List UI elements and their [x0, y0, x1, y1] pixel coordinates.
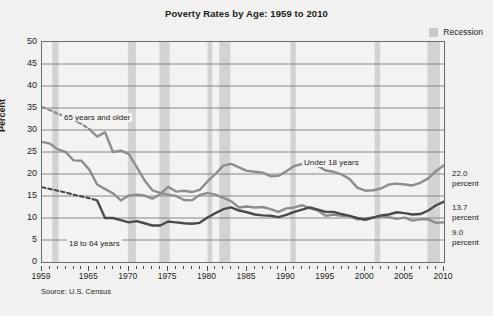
- poverty-rates-chart-figure: Poverty Rates by Age: 1959 to 2010 Reces…: [0, 0, 493, 316]
- y-tick-label: 5: [3, 234, 37, 244]
- x-tick-mark: [143, 266, 144, 269]
- x-tick-mark: [41, 266, 42, 271]
- x-tick-mark: [419, 266, 420, 269]
- series-end-value: 9.0percent: [452, 228, 479, 247]
- x-tick-mark: [270, 266, 271, 269]
- x-tick-label: 2010: [434, 271, 453, 281]
- series-line-dashed: [42, 187, 97, 200]
- x-tick-mark: [214, 266, 215, 269]
- x-tick-mark: [175, 266, 176, 269]
- x-tick-mark: [380, 266, 381, 269]
- y-tick-label: 50: [3, 36, 37, 46]
- x-tick-label: 1975: [158, 271, 177, 281]
- x-tick-mark: [183, 266, 184, 269]
- series-line: [89, 129, 444, 223]
- x-tick-mark: [301, 266, 302, 269]
- x-tick-mark: [199, 266, 200, 269]
- x-tick-mark: [293, 266, 294, 269]
- x-tick-mark: [443, 266, 444, 271]
- x-tick-mark: [396, 266, 397, 269]
- x-tick-mark: [207, 266, 208, 271]
- y-tick-label: 15: [3, 190, 37, 200]
- x-tick-mark: [73, 266, 74, 269]
- page-title: Poverty Rates by Age: 1959 to 2010: [0, 8, 493, 19]
- x-tick-mark: [80, 266, 81, 269]
- y-tick-label: 30: [3, 124, 37, 134]
- recession-legend-label: Recession: [443, 27, 483, 37]
- series-end-value: 22.0percent: [452, 169, 479, 188]
- y-tick-label: 0: [3, 256, 37, 266]
- x-tick-mark: [222, 266, 223, 269]
- x-tick-mark: [191, 266, 192, 269]
- x-tick-mark: [230, 266, 231, 269]
- x-tick-label: 1965: [79, 271, 98, 281]
- x-tick-mark: [388, 266, 389, 269]
- x-tick-mark: [96, 266, 97, 269]
- y-tick-label: 10: [3, 212, 37, 222]
- series-label: 18 to 64 years: [67, 239, 122, 248]
- x-tick-mark: [356, 266, 357, 269]
- series-end-unit: percent: [452, 179, 479, 188]
- x-tick-mark: [341, 266, 342, 269]
- x-tick-label: 2000: [355, 271, 374, 281]
- x-tick-mark: [333, 266, 334, 269]
- x-tick-mark: [238, 266, 239, 269]
- x-tick-label: 1990: [276, 271, 295, 281]
- x-tick-label: 1970: [118, 271, 137, 281]
- x-tick-mark: [167, 266, 168, 271]
- series-line: [97, 200, 444, 225]
- source-note: Source: U.S. Census: [41, 287, 111, 296]
- x-tick-mark: [364, 266, 365, 271]
- x-axis-ticks: 1959196519701975198019851990199520002005…: [0, 266, 493, 280]
- x-tick-mark: [254, 266, 255, 269]
- recession-legend-swatch: [429, 28, 438, 37]
- x-tick-mark: [348, 266, 349, 269]
- x-tick-mark: [317, 266, 318, 269]
- series-end-unit: percent: [452, 238, 479, 247]
- x-tick-mark: [128, 266, 129, 271]
- x-tick-label: 1959: [32, 271, 51, 281]
- series-end-number: 13.7: [452, 203, 468, 212]
- x-tick-mark: [372, 266, 373, 269]
- x-tick-label: 1985: [236, 271, 255, 281]
- x-tick-mark: [435, 266, 436, 269]
- x-tick-label: 2005: [394, 271, 413, 281]
- x-tick-mark: [404, 266, 405, 271]
- series-end-value: 13.7percent: [452, 203, 479, 222]
- x-tick-mark: [246, 266, 247, 271]
- x-tick-mark: [104, 266, 105, 269]
- y-tick-label: 45: [3, 58, 37, 68]
- x-tick-mark: [65, 266, 66, 269]
- x-tick-mark: [49, 266, 50, 269]
- x-tick-label: 1980: [197, 271, 216, 281]
- x-tick-mark: [88, 266, 89, 271]
- x-tick-mark: [325, 266, 326, 271]
- x-tick-label: 1995: [315, 271, 334, 281]
- series-end-number: 22.0: [452, 169, 468, 178]
- series-label: Under 18 years: [302, 158, 361, 167]
- x-tick-mark: [136, 266, 137, 269]
- legend: Recession: [429, 27, 483, 37]
- x-tick-mark: [57, 266, 58, 269]
- plot-svg: [42, 42, 444, 262]
- x-tick-mark: [120, 266, 121, 269]
- y-axis-ticks: 05101520253035404550: [0, 0, 37, 263]
- plot-area: [41, 41, 445, 263]
- x-tick-mark: [262, 266, 263, 269]
- series-line: [42, 142, 444, 201]
- series-end-number: 9.0: [452, 228, 463, 237]
- x-tick-mark: [309, 266, 310, 269]
- x-tick-mark: [159, 266, 160, 269]
- y-tick-label: 20: [3, 168, 37, 178]
- series-end-unit: percent: [452, 213, 479, 222]
- x-tick-mark: [112, 266, 113, 269]
- x-tick-mark: [151, 266, 152, 269]
- x-tick-mark: [411, 266, 412, 269]
- x-tick-mark: [285, 266, 286, 271]
- y-tick-label: 25: [3, 146, 37, 156]
- series-label: 65 years and older: [62, 113, 132, 122]
- x-tick-mark: [427, 266, 428, 269]
- y-tick-label: 35: [3, 102, 37, 112]
- x-tick-mark: [277, 266, 278, 269]
- y-tick-label: 40: [3, 80, 37, 90]
